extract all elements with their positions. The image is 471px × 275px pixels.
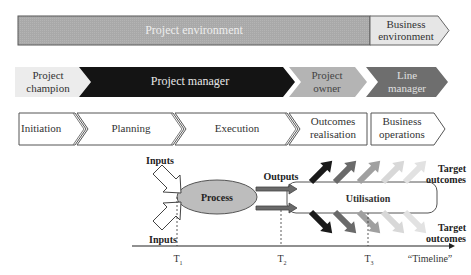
business-ops-line2: operations (371, 128, 433, 141)
project-owner-line1: Project (298, 69, 356, 82)
target-outcomes-bottom-label: Target outcomes (414, 222, 466, 244)
business-ops-line1: Business (371, 115, 433, 128)
t3-subscript: 3 (371, 260, 374, 266)
t3-label: T3 (359, 252, 379, 270)
line-manager-label: Line manager (376, 69, 438, 95)
business-environment-label: Business environment (370, 18, 442, 42)
process-label: Process (190, 191, 244, 204)
t2-label: T2 (272, 252, 292, 270)
outcomes-realisation-label: Outcomes realisation (300, 115, 366, 141)
utilisation-label: Utilisation (338, 192, 398, 205)
project-owner-line2: owner (298, 82, 356, 95)
input-arrow-top-icon (153, 165, 181, 193)
timeline-label: “Timeline” (400, 252, 460, 265)
project-environment-label: Project environment (18, 24, 370, 37)
business-environment-line2: environment (370, 30, 442, 42)
target-bottom-line1: Target (414, 222, 466, 233)
execution-label: Execution (188, 122, 286, 135)
project-champion-line2: champion (15, 82, 81, 95)
t2-subscript: 2 (284, 260, 287, 266)
outputs-label: Outputs (258, 170, 304, 183)
output-arrow-bottom-icon (256, 203, 297, 213)
outcomes-line2: realisation (300, 128, 366, 141)
initiation-label: Initiation (21, 122, 71, 135)
project-owner-label: Project owner (298, 69, 356, 95)
line-manager-line2: manager (376, 82, 438, 95)
project-manager-label: Project manager (95, 75, 285, 88)
project-champion-line1: Project (15, 69, 81, 82)
t1-label: T1 (168, 252, 188, 270)
target-top-line2: outcomes (414, 174, 466, 185)
inputs-top-label: Inputs (140, 154, 180, 167)
planning-label: Planning (90, 122, 172, 135)
line-manager-line1: Line (376, 69, 438, 82)
target-outcomes-top-label: Target outcomes (414, 163, 466, 185)
target-top-line1: Target (414, 163, 466, 174)
t1-subscript: 1 (180, 260, 183, 266)
inputs-bottom-label: Inputs (143, 233, 183, 246)
outcomes-line1: Outcomes (300, 115, 366, 128)
business-operations-label: Business operations (371, 115, 433, 141)
business-environment-line1: Business (370, 18, 442, 30)
output-arrow-top-icon (256, 184, 297, 194)
project-champion-label: Project champion (15, 69, 81, 95)
target-bottom-line2: outcomes (414, 233, 466, 244)
